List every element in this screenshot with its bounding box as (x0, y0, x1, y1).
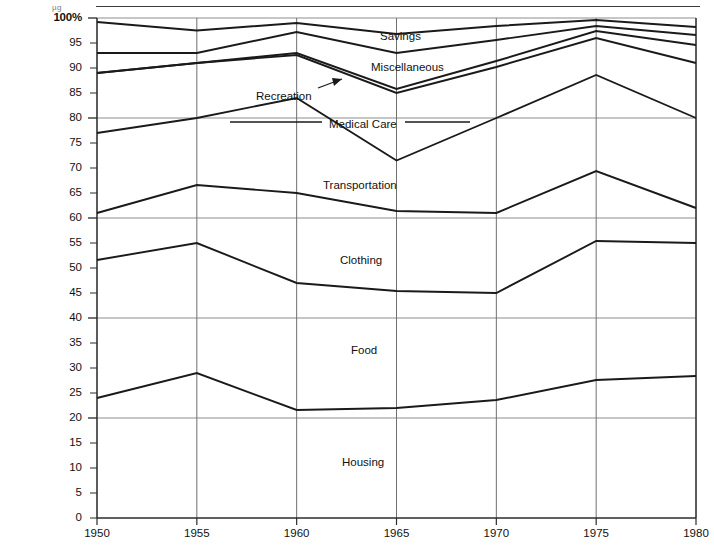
series-label-housing: Housing (342, 456, 384, 468)
series-label-clothing: Clothing (340, 254, 382, 266)
x-axis-tick-label: 1965 (367, 527, 427, 539)
y-axis-tick-label: 35 (36, 336, 82, 348)
y-axis-tick-label: 15 (36, 436, 82, 448)
y-axis-tick-label: 95 (36, 36, 82, 48)
y-axis-tick-label: 45 (36, 286, 82, 298)
y-axis-tick-label: 90 (36, 61, 82, 73)
y-axis-tick-label: 30 (36, 361, 82, 373)
y-axis-tick-label: 85 (36, 86, 82, 98)
x-axis-tick-label: 1980 (666, 527, 714, 539)
y-axis-tick-label: 70 (36, 161, 82, 173)
y-axis-tick-label: 25 (36, 386, 82, 398)
y-axis-tick-label: 10 (36, 461, 82, 473)
x-axis-tick-label: 1975 (566, 527, 626, 539)
x-axis-tick-label: 1960 (267, 527, 327, 539)
y-axis-tick-label: 100% (26, 11, 82, 23)
x-axis-tick-label: 1955 (167, 527, 227, 539)
y-axis-tick-label: 50 (36, 261, 82, 273)
y-axis-tick-label: 60 (36, 211, 82, 223)
x-axis-tick-label: 1950 (67, 527, 127, 539)
y-axis-tick-label: 20 (36, 411, 82, 423)
y-axis-tick-label: 75 (36, 136, 82, 148)
series-label-miscellaneous: Miscellaneous (371, 61, 444, 73)
series-label-transportation: Transportation (323, 179, 397, 191)
y-axis-tick-label: 55 (36, 236, 82, 248)
y-axis-tick-label: 65 (36, 186, 82, 198)
series-label-food: Food (351, 344, 377, 356)
series-label-medical-care: Medical Care (329, 118, 397, 130)
y-axis-tick-label: 80 (36, 111, 82, 123)
recreation-arrowhead (332, 78, 342, 86)
x-axis-tick-label: 1970 (466, 527, 526, 539)
y-axis-tick-label: 5 (36, 486, 82, 498)
y-axis-tick-label: 40 (36, 311, 82, 323)
series-label-recreation: Recreation (256, 90, 312, 102)
series-label-savings: Savings (380, 30, 421, 42)
y-axis-tick-label: 0 (36, 511, 82, 523)
